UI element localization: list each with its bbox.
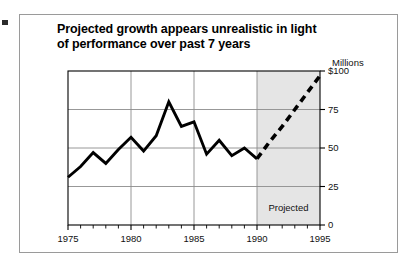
x-axis-tick-label: 1980 xyxy=(120,233,141,244)
x-axis-tick-label: 1975 xyxy=(57,233,78,244)
y-axis-tick-label: 25 xyxy=(328,181,339,192)
actual-data-line xyxy=(68,102,257,177)
y-axis-tick-label: $100 xyxy=(328,65,349,76)
chart-svg: 0255075$10019751980198519901995Projected xyxy=(0,0,419,279)
x-axis-tick-label: 1990 xyxy=(246,233,267,244)
y-axis-tick-label: 75 xyxy=(328,104,339,115)
y-axis-tick-label: 0 xyxy=(328,219,333,230)
projected-region-label: Projected xyxy=(268,202,308,213)
x-axis-tick-label: 1995 xyxy=(309,233,330,244)
x-axis-tick-label: 1985 xyxy=(183,233,204,244)
chart-plot-area: 0255075$10019751980198519901995Projected xyxy=(0,0,419,279)
y-axis-tick-label: 50 xyxy=(328,142,339,153)
